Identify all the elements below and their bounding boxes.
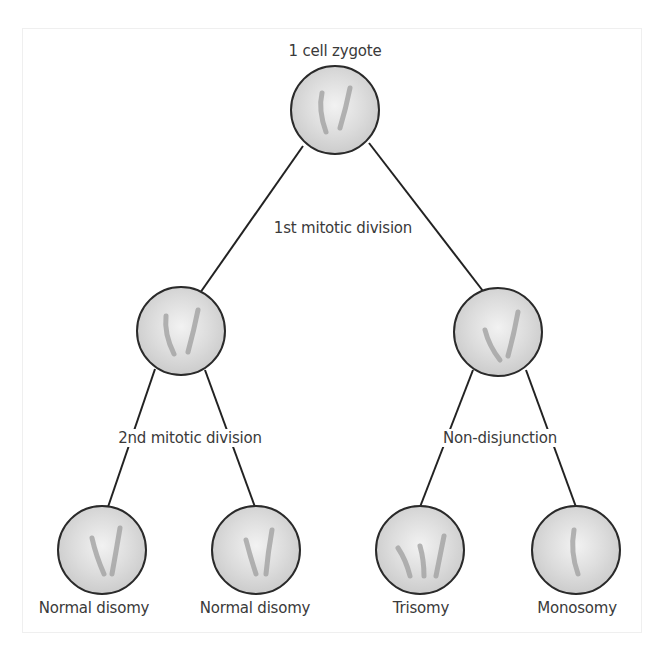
edge-root-mid-right <box>369 143 483 291</box>
first-division-label: 1st mitotic division <box>271 219 415 237</box>
root-label: 1 cell zygote <box>286 42 385 60</box>
division-tree <box>0 0 660 647</box>
cell-mid-left <box>137 287 225 375</box>
leaf-1-label: Normal disomy <box>36 599 153 617</box>
cell-leaf-1 <box>58 506 146 594</box>
cell-leaf-2 <box>212 506 300 594</box>
cell-zygote <box>291 66 379 154</box>
leaf-3-label: Trisomy <box>390 599 452 617</box>
cell-leaf-3 <box>376 506 464 594</box>
nondisjunction-label: Non-disjunction <box>440 429 560 447</box>
cell-leaf-4 <box>532 506 620 594</box>
cell-mid-right <box>454 288 542 376</box>
leaf-4-label: Monosomy <box>534 599 620 617</box>
leaf-2-label: Normal disomy <box>197 599 314 617</box>
second-division-label: 2nd mitotic division <box>115 429 265 447</box>
